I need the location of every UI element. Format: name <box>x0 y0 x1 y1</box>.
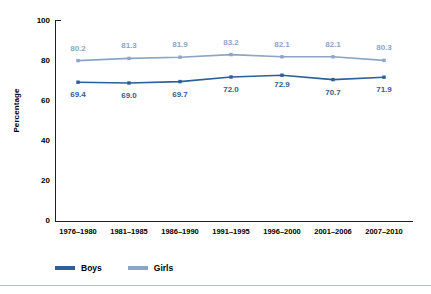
data-point-marker <box>76 59 79 62</box>
legend-item-boys[interactable]: Boys <box>55 263 102 273</box>
legend-label: Boys <box>81 263 102 273</box>
page-bottom-rule <box>0 285 431 286</box>
legend-item-girls[interactable]: Girls <box>128 263 173 273</box>
data-point-marker <box>178 80 181 83</box>
data-point-marker <box>382 59 385 62</box>
data-point-marker <box>178 56 181 59</box>
chart-legend: Boys Girls <box>55 261 173 275</box>
data-point-marker <box>382 76 385 79</box>
data-point-marker <box>229 75 232 78</box>
data-point-marker <box>76 81 79 84</box>
line-chart: Percentage 100 80 60 40 20 0 1976–1980 1… <box>0 0 431 294</box>
legend-swatch-boys <box>55 266 75 270</box>
chart-page: Percentage 100 80 60 40 20 0 1976–1980 1… <box>0 0 431 294</box>
data-label-boys: 71.9 <box>354 85 414 94</box>
data-point-marker <box>331 78 334 81</box>
data-point-marker <box>280 74 283 77</box>
data-point-marker <box>127 81 130 84</box>
data-point-marker <box>229 53 232 56</box>
data-point-marker <box>127 57 130 60</box>
data-point-marker <box>331 55 334 58</box>
legend-swatch-girls <box>128 266 148 270</box>
data-point-marker <box>280 55 283 58</box>
legend-label: Girls <box>154 263 173 273</box>
data-label-girls: 80.3 <box>354 43 414 52</box>
